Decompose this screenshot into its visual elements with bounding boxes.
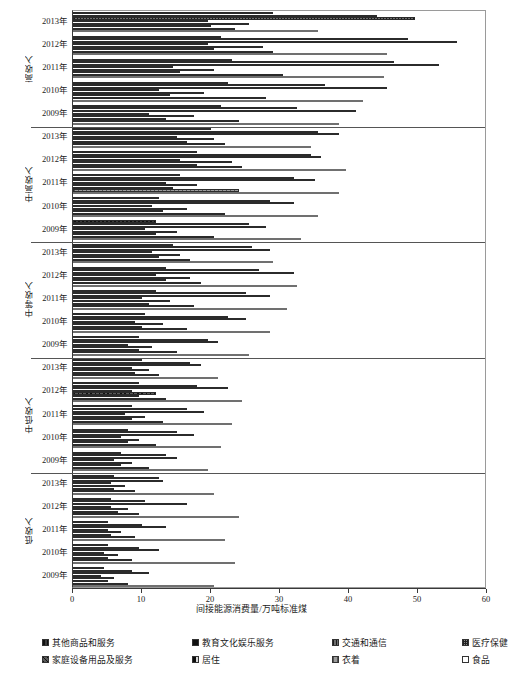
legend-item-other[interactable]: 其他商品和服务 xyxy=(42,636,192,649)
legend-label: 医疗保健 xyxy=(472,636,508,649)
year-tick-label: 2012年 xyxy=(22,502,68,511)
x-tick xyxy=(417,589,418,593)
bar-food xyxy=(73,215,318,217)
legend-swatch-icon xyxy=(42,639,49,646)
plot-inner xyxy=(73,11,485,587)
bar-food xyxy=(73,100,363,102)
year-tick-label: 2013年 xyxy=(22,248,68,257)
bar-food xyxy=(73,377,218,379)
year-tick-label: 2010年 xyxy=(22,317,68,326)
year-tick-label: 2012年 xyxy=(22,271,68,280)
x-tick xyxy=(348,589,349,593)
bar-food xyxy=(73,261,273,263)
bar-food xyxy=(73,400,242,402)
legend-item-med[interactable]: 医疗保健 xyxy=(462,636,512,649)
bar-food xyxy=(73,354,249,356)
year-tick-label: 2010年 xyxy=(22,548,68,557)
chart-legend: 其他商品和服务教育文化娱乐服务交通和通信医疗保健家庭设备用品及服务居住衣着食品 xyxy=(42,634,462,668)
year-tick-label: 2010年 xyxy=(22,86,68,95)
legend-label: 家庭设备用品及服务 xyxy=(52,653,133,666)
bar-food xyxy=(73,585,214,587)
x-tick xyxy=(279,589,280,593)
x-tick xyxy=(72,589,73,593)
year-tick-label: 2009年 xyxy=(22,109,68,118)
year-tick-label: 2009年 xyxy=(22,340,68,349)
year-tick-label: 2009年 xyxy=(22,571,68,580)
bar-food xyxy=(73,423,232,425)
legend-item-trans[interactable]: 交通和通信 xyxy=(332,636,462,649)
legend-item-house[interactable]: 家庭设备用品及服务 xyxy=(42,653,192,666)
year-tick-label: 2013年 xyxy=(22,132,68,141)
year-tick-label: 2010年 xyxy=(22,433,68,442)
bar-food xyxy=(73,169,346,171)
year-tick-label: 2009年 xyxy=(22,456,68,465)
legend-swatch-icon xyxy=(42,656,49,663)
x-axis-title: 间接能源消费量/万吨标准煤 xyxy=(0,602,503,615)
legend-label: 交通和通信 xyxy=(342,636,387,649)
legend-label: 居住 xyxy=(202,653,220,666)
legend-item-edu[interactable]: 教育文化娱乐服务 xyxy=(192,636,332,649)
legend-label: 衣着 xyxy=(342,653,360,666)
legend-label: 教育文化娱乐服务 xyxy=(202,636,274,649)
bar-food xyxy=(73,123,339,125)
year-tick-label: 2009年 xyxy=(22,225,68,234)
legend-swatch-icon xyxy=(462,656,469,663)
x-tick xyxy=(486,589,487,593)
legend-label: 其他商品和服务 xyxy=(52,636,115,649)
legend-label: 食品 xyxy=(472,653,490,666)
legend-swatch-icon xyxy=(192,639,199,646)
year-tick-label: 2013年 xyxy=(22,479,68,488)
x-tick xyxy=(141,589,142,593)
bar-food xyxy=(73,53,387,55)
legend-swatch-icon xyxy=(332,656,339,663)
legend-item-food[interactable]: 食品 xyxy=(462,653,512,666)
legend-swatch-icon xyxy=(462,639,469,646)
legend-swatch-icon xyxy=(192,656,199,663)
bar-food xyxy=(73,446,221,448)
year-tick-label: 2012年 xyxy=(22,386,68,395)
bar-food xyxy=(73,285,297,287)
bar-food xyxy=(73,562,235,564)
bar-food xyxy=(73,469,208,471)
bar-food xyxy=(73,308,287,310)
bar-food xyxy=(73,539,225,541)
x-tick xyxy=(210,589,211,593)
year-tick-label: 2011年 xyxy=(22,178,68,187)
year-tick-label: 2013年 xyxy=(22,363,68,372)
bar-food xyxy=(73,192,339,194)
bar-food xyxy=(73,76,384,78)
bar-food xyxy=(73,146,311,148)
year-tick-label: 2011年 xyxy=(22,294,68,303)
year-tick-label: 2012年 xyxy=(22,40,68,49)
plot-area xyxy=(72,10,486,588)
bar-food xyxy=(73,30,318,32)
year-tick-label: 2011年 xyxy=(22,410,68,419)
legend-item-cloth[interactable]: 衣着 xyxy=(332,653,462,666)
bar-food xyxy=(73,238,301,240)
legend-item-live[interactable]: 居住 xyxy=(192,653,332,666)
year-tick-label: 2012年 xyxy=(22,155,68,164)
year-tick-label: 2013年 xyxy=(22,17,68,26)
year-tick-label: 2011年 xyxy=(22,525,68,534)
bar-food xyxy=(73,516,239,518)
legend-swatch-icon xyxy=(332,639,339,646)
bar-food xyxy=(73,493,214,495)
year-tick-label: 2010年 xyxy=(22,202,68,211)
bar-food xyxy=(73,331,270,333)
year-tick-label: 2011年 xyxy=(22,63,68,72)
